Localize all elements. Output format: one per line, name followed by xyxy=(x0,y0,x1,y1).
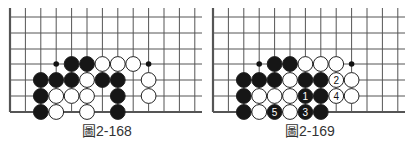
black-stone xyxy=(298,73,313,88)
black-stone xyxy=(313,89,328,104)
white-stone xyxy=(80,105,95,120)
black-stone xyxy=(110,89,125,104)
caption-right-text: 圖2-169 xyxy=(285,123,335,139)
white-stone xyxy=(64,89,79,104)
caption-right: 圖2-169 xyxy=(285,120,335,140)
white-stone xyxy=(344,89,359,104)
white-stone xyxy=(141,89,156,104)
marker-dot xyxy=(256,61,262,67)
white-stone xyxy=(298,57,313,72)
black-stone xyxy=(80,57,95,72)
white-stone xyxy=(80,89,95,104)
white-stone xyxy=(126,57,141,72)
white-stone xyxy=(95,57,110,72)
white-stone xyxy=(141,73,156,88)
white-stone: 2 xyxy=(329,73,344,88)
black-stone xyxy=(252,73,267,88)
black-stone: 3 xyxy=(298,105,313,120)
caption-left: 圖2-168 xyxy=(82,120,132,140)
white-stone xyxy=(267,89,282,104)
white-stone xyxy=(344,73,359,88)
black-stone xyxy=(110,105,125,120)
black-stone xyxy=(95,73,110,88)
white-stone xyxy=(329,57,344,72)
marker-dot xyxy=(146,61,152,67)
marker-dot xyxy=(53,61,59,67)
black-stone xyxy=(313,105,328,120)
black-stone xyxy=(49,73,64,88)
white-stone xyxy=(49,105,64,120)
move-number: 2 xyxy=(333,75,339,86)
white-stone xyxy=(313,57,328,72)
black-stone xyxy=(236,105,251,120)
black-stone xyxy=(267,73,282,88)
black-stone: 5 xyxy=(267,105,282,120)
white-stone xyxy=(110,57,125,72)
move-number: 4 xyxy=(333,91,339,102)
move-number: 1 xyxy=(303,91,309,102)
black-stone xyxy=(267,57,282,72)
black-stone xyxy=(33,73,48,88)
black-stone xyxy=(313,73,328,88)
marker-dot xyxy=(349,61,355,67)
white-stone xyxy=(283,105,298,120)
white-stone: 4 xyxy=(329,89,344,104)
move-number: 5 xyxy=(272,107,278,118)
white-stone xyxy=(283,89,298,104)
white-stone xyxy=(80,73,95,88)
move-number: 3 xyxy=(303,107,309,118)
black-stone xyxy=(236,73,251,88)
black-stone xyxy=(33,89,48,104)
caption-left-text: 圖2-168 xyxy=(82,123,132,139)
black-stone xyxy=(283,57,298,72)
black-stone: 1 xyxy=(298,89,313,104)
black-stone xyxy=(236,89,251,104)
white-stone xyxy=(283,73,298,88)
white-stone xyxy=(49,89,64,104)
white-stone xyxy=(252,89,267,104)
black-stone xyxy=(64,57,79,72)
black-stone xyxy=(33,105,48,120)
white-stone xyxy=(252,105,267,120)
black-stone xyxy=(64,73,79,88)
black-stone xyxy=(110,73,125,88)
